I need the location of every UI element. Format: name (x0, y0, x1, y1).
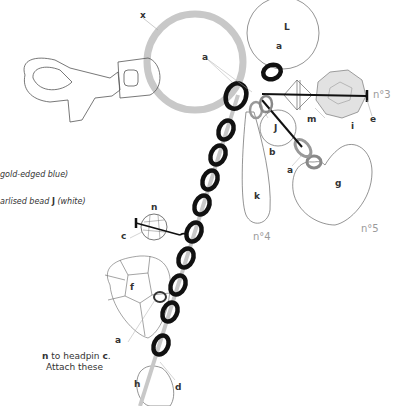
instruction-fragment-4: Attach these (46, 362, 103, 373)
label-m: m (307, 115, 316, 124)
label-k: k (254, 192, 260, 201)
label-i: i (351, 122, 354, 131)
lobster-clasp (24, 58, 160, 122)
label-g: g (335, 179, 341, 188)
faceted-bead-i (316, 70, 366, 118)
label-c: c (121, 232, 126, 241)
label-a-ring: a (202, 53, 208, 62)
faceted-bead-f (105, 256, 170, 338)
label-L: L (284, 23, 290, 32)
label-n4: n°4 (253, 232, 271, 242)
label-n: n (151, 203, 157, 212)
label-a-heart: a (287, 166, 293, 175)
label-f: f (130, 283, 134, 292)
label-a-bottom: a (115, 336, 121, 345)
label-d: d (175, 383, 181, 392)
instruction-fragment-1: gold-edged blue) (0, 170, 68, 180)
label-a-top: a (276, 42, 282, 51)
label-n5: n°5 (361, 224, 379, 234)
bead-J (260, 110, 296, 146)
instruction-fragment-3: n to headpin c. (42, 351, 111, 362)
label-h: h (134, 380, 140, 389)
label-x: x (140, 11, 146, 20)
label-b: b (269, 148, 275, 157)
drop-bead-k (242, 112, 270, 223)
label-J: J (274, 124, 277, 133)
label-n3: n°3 (373, 90, 391, 100)
instruction-fragment-2: arlised bead J (white) (0, 197, 86, 207)
label-e: e (370, 115, 376, 124)
split-ring (147, 14, 243, 110)
jewelry-assembly-diagram: x L a a n°3 e i m J b a g k n°4 n°5 n c … (0, 0, 393, 406)
bead-L (247, 0, 319, 69)
